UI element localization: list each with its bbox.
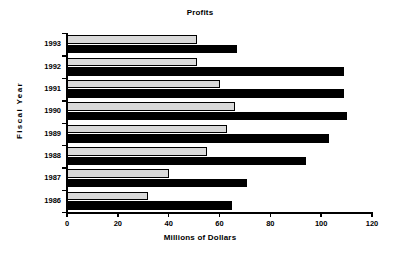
bar-gray-series-1988 <box>67 147 207 156</box>
x-axis-tick <box>117 212 118 217</box>
category-label-1989: 1989 <box>44 129 61 138</box>
category-label-1987: 1987 <box>44 173 61 182</box>
bar-gray-series-1986 <box>67 192 148 201</box>
x-axis-tick-label: 100 <box>306 219 336 228</box>
category-label-1988: 1988 <box>44 151 61 160</box>
bar-black-series-1988 <box>67 157 306 166</box>
bar-black-series-1987 <box>67 179 247 188</box>
bar-gray-series-1992 <box>67 58 197 67</box>
chart-title: Profits <box>0 8 400 17</box>
x-axis-tick <box>270 212 271 217</box>
bar-gray-series-1989 <box>67 125 227 134</box>
category-label-1986: 1986 <box>44 196 61 205</box>
x-axis-tick-label: 80 <box>255 219 285 228</box>
x-axis-tick-label: 120 <box>357 219 387 228</box>
bar-black-series-1992 <box>67 67 344 76</box>
bar-black-series-1989 <box>67 134 329 143</box>
x-axis-tick <box>219 212 220 217</box>
bar-gray-series-1987 <box>67 169 169 178</box>
category-label-layer: 19931992199119901989198819871986 <box>0 33 65 212</box>
y-axis-tick <box>62 212 68 213</box>
x-axis-tick <box>168 212 169 217</box>
x-axis-tick <box>371 212 372 217</box>
category-label-1993: 1993 <box>44 39 61 48</box>
bar-black-series-1986 <box>67 201 232 210</box>
x-axis-tick-label: 0 <box>52 219 82 228</box>
category-label-1991: 1991 <box>44 84 61 93</box>
plot-area: 020406080100120 <box>67 33 372 212</box>
profits-bar-chart: Profits Fiscal Year 19931992199119901989… <box>0 0 400 256</box>
bar-gray-series-1991 <box>67 80 220 89</box>
bar-black-series-1991 <box>67 89 344 98</box>
x-axis-title: Millions of Dollars <box>0 233 400 242</box>
bar-gray-series-1993 <box>67 35 197 44</box>
x-axis-tick-label: 20 <box>103 219 133 228</box>
x-axis-tick-label: 40 <box>154 219 184 228</box>
category-label-1990: 1990 <box>44 106 61 115</box>
bar-black-series-1990 <box>67 112 347 121</box>
x-axis-tick-label: 60 <box>205 219 235 228</box>
bar-gray-series-1990 <box>67 102 235 111</box>
category-label-1992: 1992 <box>44 62 61 71</box>
bar-black-series-1993 <box>67 45 237 54</box>
x-axis-tick <box>320 212 321 217</box>
